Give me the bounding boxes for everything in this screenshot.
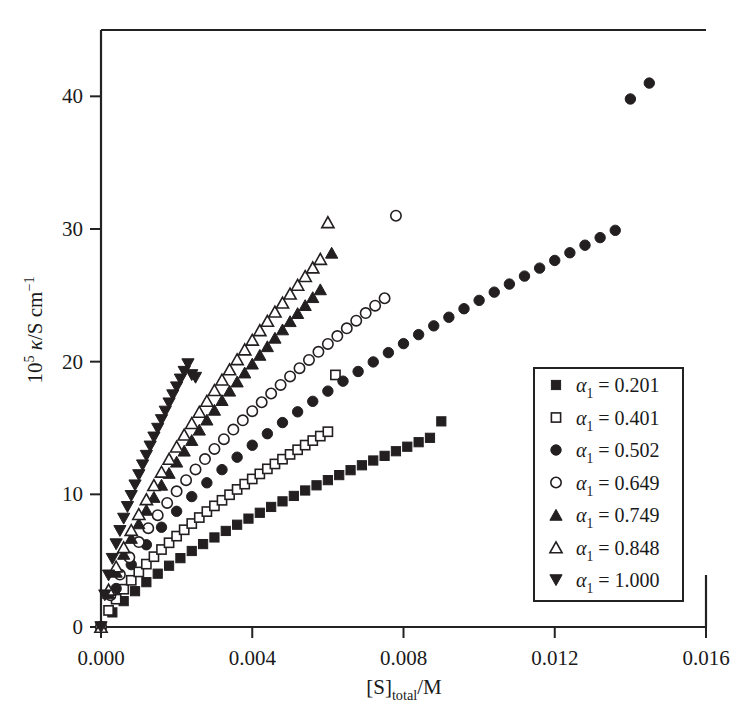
data-point xyxy=(304,355,314,365)
data-point xyxy=(153,569,162,578)
legend-marker-open-square xyxy=(551,413,560,422)
data-point xyxy=(565,248,575,258)
data-point xyxy=(644,78,654,88)
data-point xyxy=(267,502,276,511)
legend: α1 = 0.201α1 = 0.401α1 = 0.502α1 = 0.649… xyxy=(534,368,683,601)
data-point xyxy=(198,539,207,548)
x-tick-label: 0.016 xyxy=(682,646,729,670)
data-point xyxy=(164,561,173,570)
svg-text:105 κ/S cm−1: 105 κ/S cm−1 xyxy=(21,276,47,383)
data-point xyxy=(238,415,248,425)
data-point xyxy=(104,606,113,615)
data-point xyxy=(580,240,590,250)
data-point xyxy=(219,434,229,444)
data-point xyxy=(403,442,412,451)
data-point xyxy=(550,255,560,265)
y-tick-label: 0 xyxy=(73,615,84,639)
data-point xyxy=(233,520,242,529)
data-point xyxy=(413,329,423,339)
data-point xyxy=(391,447,400,456)
y-tick-label: 10 xyxy=(62,482,83,506)
data-point xyxy=(346,466,355,475)
x-tick-label: 0.000 xyxy=(77,646,124,670)
legend-marker-open-circle xyxy=(551,477,561,487)
data-point xyxy=(153,510,163,520)
data-point xyxy=(289,491,298,500)
y-tick-label: 40 xyxy=(62,84,83,108)
data-point xyxy=(323,427,332,436)
data-point xyxy=(489,287,499,297)
data-point xyxy=(221,526,230,535)
data-point xyxy=(187,546,196,555)
data-point xyxy=(312,481,321,490)
data-point xyxy=(380,451,389,460)
x-tick-label: 0.004 xyxy=(229,646,277,670)
data-point xyxy=(368,357,378,367)
data-point xyxy=(262,429,272,439)
data-point xyxy=(232,452,242,462)
data-point xyxy=(301,486,310,495)
data-point xyxy=(130,587,139,596)
data-point xyxy=(391,211,401,221)
data-point xyxy=(244,514,253,523)
data-point xyxy=(308,396,318,406)
data-point xyxy=(275,380,285,390)
data-point xyxy=(379,293,389,303)
data-point xyxy=(292,407,302,417)
data-point xyxy=(285,371,295,381)
data-point xyxy=(519,271,529,281)
data-point xyxy=(437,417,446,426)
data-point xyxy=(414,438,423,447)
x-tick-label: 0.008 xyxy=(380,646,427,670)
legend-marker-filled-square xyxy=(551,380,560,389)
data-point xyxy=(156,522,166,532)
data-point xyxy=(255,508,264,517)
data-point xyxy=(247,406,257,416)
data-point xyxy=(210,533,219,542)
data-point xyxy=(171,506,181,516)
data-point xyxy=(278,497,287,506)
data-point xyxy=(228,424,238,434)
data-point xyxy=(187,491,197,501)
data-point xyxy=(353,366,363,376)
data-point xyxy=(181,475,191,485)
data-point xyxy=(425,433,434,442)
data-point xyxy=(142,578,151,587)
data-point xyxy=(335,470,344,479)
data-point xyxy=(162,498,172,508)
data-point xyxy=(171,486,181,496)
data-point xyxy=(200,454,210,464)
data-point xyxy=(351,315,361,325)
data-point xyxy=(595,232,605,242)
data-point xyxy=(332,331,342,341)
data-point xyxy=(534,263,544,273)
data-point xyxy=(360,308,370,318)
data-point xyxy=(370,300,380,310)
data-point xyxy=(369,456,378,465)
data-point xyxy=(313,347,323,357)
data-point xyxy=(190,464,200,474)
data-point xyxy=(257,397,267,407)
data-point xyxy=(176,554,185,563)
data-point xyxy=(459,304,469,314)
data-point xyxy=(625,94,635,104)
data-point xyxy=(338,376,348,386)
data-point xyxy=(357,461,366,470)
legend-marker-filled-circle xyxy=(551,445,561,455)
data-point xyxy=(474,295,484,305)
data-point xyxy=(383,347,393,357)
data-point xyxy=(323,476,332,485)
y-axis-title: 105 κ/S cm−1 xyxy=(21,276,47,383)
data-point xyxy=(429,321,439,331)
y-tick-label: 30 xyxy=(62,217,83,241)
data-point xyxy=(342,323,352,333)
y-tick-label: 20 xyxy=(62,350,83,374)
data-point xyxy=(610,225,620,235)
data-point xyxy=(294,363,304,373)
data-point xyxy=(247,440,257,450)
data-point xyxy=(323,339,333,349)
data-point xyxy=(504,279,514,289)
data-point xyxy=(398,338,408,348)
data-point xyxy=(202,478,212,488)
data-point xyxy=(209,444,219,454)
